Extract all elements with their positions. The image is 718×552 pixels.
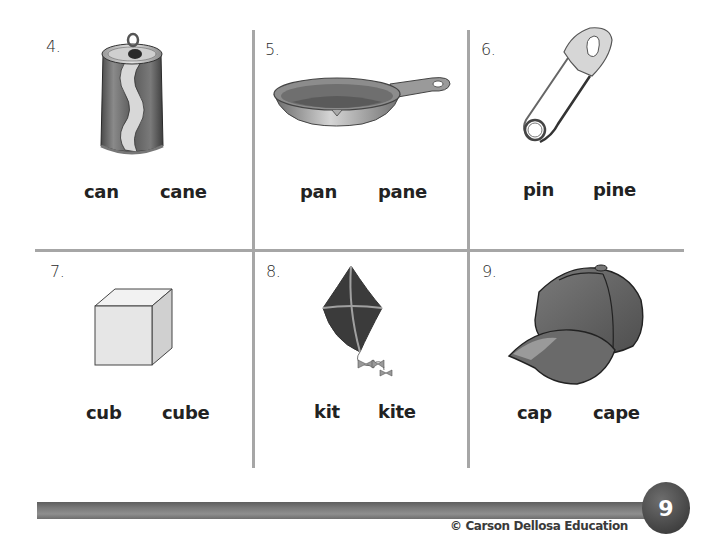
copyright-text: © Carson Dellosa Education xyxy=(450,519,628,533)
item-number: 6. xyxy=(481,40,495,59)
word-choice-can[interactable]: can xyxy=(84,181,119,202)
word-choice-pin[interactable]: pin xyxy=(523,179,554,200)
frying-pan-icon xyxy=(272,72,452,132)
item-number: 5. xyxy=(265,40,279,59)
item-number: 4. xyxy=(46,37,60,56)
cube-icon xyxy=(92,286,176,368)
safety-pin-icon xyxy=(518,24,628,152)
item-number: 7. xyxy=(50,262,64,281)
kite-icon xyxy=(318,264,398,379)
word-choice-pine[interactable]: pine xyxy=(593,179,636,200)
word-choice-pane[interactable]: pane xyxy=(378,181,427,202)
word-choice-kit[interactable]: kit xyxy=(314,401,340,422)
word-choice-kite[interactable]: kite xyxy=(378,401,416,422)
soda-can-icon xyxy=(95,28,169,160)
word-choice-pan[interactable]: pan xyxy=(300,181,337,202)
word-choice-cape[interactable]: cape xyxy=(593,402,640,423)
item-number: 9. xyxy=(482,262,496,281)
page-number: 9 xyxy=(658,496,673,521)
page-number-badge: 9 xyxy=(642,482,690,534)
word-choice-cub[interactable]: cub xyxy=(86,402,121,423)
baseball-cap-icon xyxy=(505,260,647,388)
footer-decorative-bar xyxy=(37,502,649,519)
grid-divider-horizontal xyxy=(35,249,684,252)
word-choice-cane[interactable]: cane xyxy=(160,181,207,202)
word-choice-cap[interactable]: cap xyxy=(517,402,552,423)
item-number: 8. xyxy=(266,262,280,281)
word-choice-cube[interactable]: cube xyxy=(162,402,209,423)
